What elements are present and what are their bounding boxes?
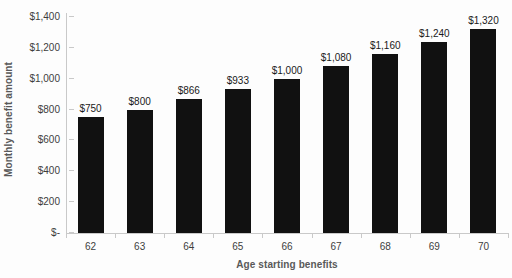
x-axis-category-label: 69 xyxy=(409,241,459,253)
bar-value-label: $1,320 xyxy=(458,15,508,27)
y-axis-tick-label: $1,400 xyxy=(4,11,60,23)
bar xyxy=(274,79,300,233)
bar-group: $866 xyxy=(176,17,202,233)
bar-group: $933 xyxy=(225,17,251,233)
y-axis-tick: $1,200 xyxy=(0,42,74,54)
bar xyxy=(127,110,153,233)
bar xyxy=(372,54,398,233)
x-axis-category-label: 62 xyxy=(66,241,116,253)
bar xyxy=(323,66,349,233)
y-axis-tick: $800 xyxy=(0,104,74,116)
bar-group: $800 xyxy=(127,17,153,233)
bar-group: $1,160 xyxy=(372,17,398,233)
bar-group: $1,240 xyxy=(421,17,447,233)
x-axis-category-label: 63 xyxy=(115,241,165,253)
bar-group: $750 xyxy=(78,17,104,233)
y-axis-tick: $400 xyxy=(0,165,74,177)
y-axis-tick-label: $1,200 xyxy=(4,42,60,54)
bar-value-label: $933 xyxy=(213,75,263,87)
x-axis-line xyxy=(66,233,508,234)
x-axis-category-label: 67 xyxy=(311,241,361,253)
y-axis-tick-label: $800 xyxy=(4,104,60,116)
x-axis-category-label: 64 xyxy=(164,241,214,253)
x-axis-tick-mark xyxy=(410,233,411,238)
bar-group: $1,000 xyxy=(274,17,300,233)
bar-value-label: $1,000 xyxy=(262,65,312,77)
y-axis-tick-label: $1,000 xyxy=(4,73,60,85)
bar xyxy=(176,99,202,233)
bar-value-label: $1,240 xyxy=(409,28,459,40)
x-axis-tick-mark xyxy=(361,233,362,238)
plot-area: $750$800$866$933$1,000$1,080$1,160$1,240… xyxy=(66,17,508,233)
x-axis-category-label: 65 xyxy=(213,241,263,253)
y-axis-tick: $1,400 xyxy=(0,11,74,23)
x-axis-tick-mark xyxy=(115,233,116,238)
x-axis-category-label: 68 xyxy=(360,241,410,253)
bar-group: $1,080 xyxy=(323,17,349,233)
x-axis-tick-mark xyxy=(213,233,214,238)
y-axis-tick: $- xyxy=(0,227,74,239)
bar xyxy=(421,42,447,233)
bar xyxy=(78,117,104,233)
x-axis-tick-mark xyxy=(508,233,509,238)
x-axis-tick-mark xyxy=(312,233,313,238)
x-axis-tick-mark xyxy=(459,233,460,238)
bar-value-label: $866 xyxy=(164,85,214,97)
y-axis-tick: $600 xyxy=(0,134,74,146)
bar xyxy=(470,29,496,233)
bar-value-label: $1,160 xyxy=(360,40,410,52)
x-axis-tick-mark xyxy=(262,233,263,238)
x-axis-tick-mark xyxy=(66,233,67,238)
y-axis-tick-label: $600 xyxy=(4,134,60,146)
y-axis-tick-label: $200 xyxy=(4,196,60,208)
bar-chart: Monthly benefit amount $1,400$1,200$1,00… xyxy=(0,0,512,278)
y-axis-tick-label: $- xyxy=(4,227,60,239)
x-axis-category-label: 66 xyxy=(262,241,312,253)
y-axis-tick-label: $400 xyxy=(4,165,60,177)
bar-value-label: $750 xyxy=(66,103,116,115)
x-axis-tick-mark xyxy=(164,233,165,238)
bar xyxy=(225,89,251,233)
bar-group: $1,320 xyxy=(470,17,496,233)
y-axis-tick: $200 xyxy=(0,196,74,208)
x-axis-title: Age starting benefits xyxy=(66,259,508,270)
bar-value-label: $800 xyxy=(115,96,165,108)
bar-value-label: $1,080 xyxy=(311,52,361,64)
y-axis-tick: $1,000 xyxy=(0,73,74,85)
x-axis-category-label: 70 xyxy=(458,241,508,253)
